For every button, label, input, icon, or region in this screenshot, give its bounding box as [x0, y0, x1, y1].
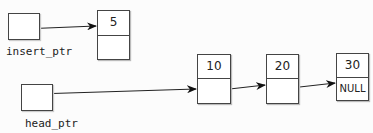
- node-10: 10: [197, 54, 231, 104]
- node-value: 30: [337, 54, 368, 78]
- node-value: 10: [198, 55, 230, 79]
- node-next: [98, 35, 129, 59]
- insert-ptr-box: [8, 13, 40, 40]
- insert-ptr-label: insert_ptr: [6, 45, 72, 58]
- node-next: [198, 78, 230, 103]
- node-next-null: NULL: [337, 77, 368, 100]
- node-next: [267, 78, 298, 103]
- node-value: 20: [267, 55, 298, 79]
- node-5: 5: [97, 10, 130, 60]
- head-ptr-box: [21, 84, 53, 111]
- node-20: 20: [266, 54, 299, 104]
- node-30: 30 NULL: [336, 53, 369, 101]
- arrows-layer: [0, 0, 373, 133]
- head-ptr-label: head_ptr: [25, 117, 78, 130]
- node-value: 5: [98, 11, 129, 36]
- head-ptr-arrow: [36, 89, 196, 94]
